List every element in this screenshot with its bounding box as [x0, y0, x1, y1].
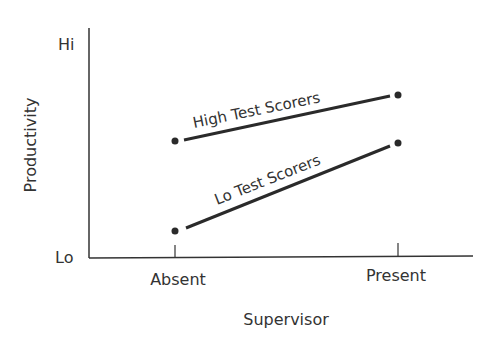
y-label-hi: Hi — [58, 35, 74, 54]
x-label-absent: Absent — [150, 270, 206, 289]
x-axis — [89, 256, 473, 258]
series-lo-point-absent — [172, 228, 179, 235]
x-label-present: Present — [366, 266, 426, 285]
series-high-point-absent — [172, 138, 179, 145]
interaction-chart: Hi Lo Absent Present Supervisor Producti… — [0, 0, 495, 340]
series-lo-line — [186, 146, 390, 228]
y-label-lo: Lo — [55, 248, 73, 267]
y-axis-title: Productivity — [21, 98, 40, 193]
series-lo-point-present — [395, 140, 402, 147]
series-high-point-present — [395, 92, 402, 99]
x-axis-title: Supervisor — [243, 310, 329, 329]
